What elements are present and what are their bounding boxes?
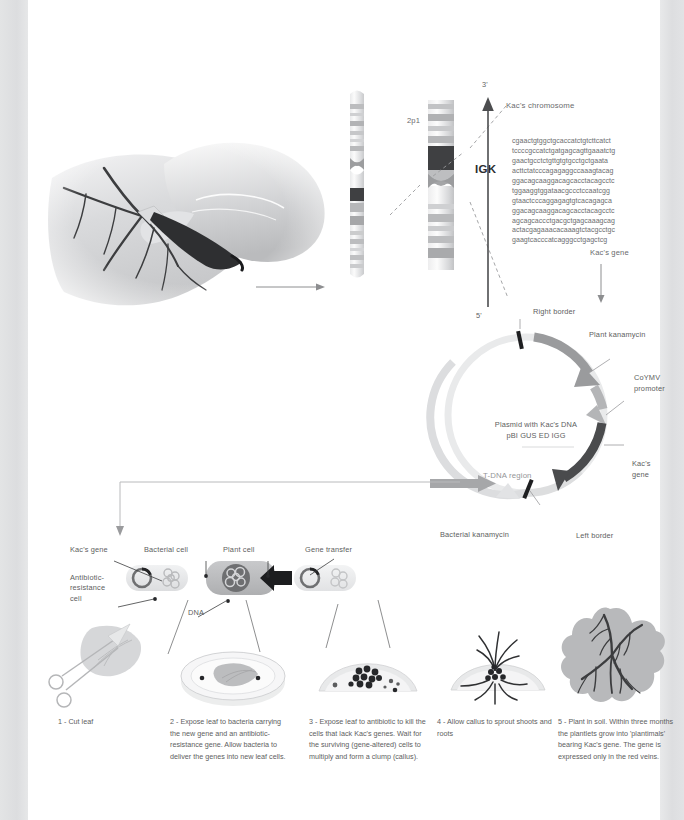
figure-page: 2p1 16 15 14 13 12 11 bbox=[0, 0, 684, 820]
sequence-line: gtaactcccaggagagtgtcacagagca bbox=[512, 196, 642, 206]
plasmid-center-line-1: Plasmid with Kac's DNA bbox=[488, 420, 584, 431]
step-caption-4: 4 - Allow callus to sprout shoots and ro… bbox=[437, 716, 555, 739]
arrow-arm-to-chromosome bbox=[256, 282, 326, 292]
kacs-chromosome-caption: Kac's chromosome bbox=[506, 100, 574, 111]
plasmid-label-kacs-gene: Kac's gene bbox=[632, 459, 660, 480]
step-3-illustration-antibiotic-dish bbox=[313, 645, 423, 707]
connector-plasmid-to-steps bbox=[96, 478, 466, 542]
schematic-label-kacs-gene: Kac's gene bbox=[70, 545, 108, 556]
sequence-line: tccccgccatctgatgagcagttgaaatctg bbox=[512, 146, 642, 156]
strand-label-3prime: 3' bbox=[482, 80, 488, 91]
promoter-line-2: promoter bbox=[634, 384, 665, 395]
sequence-line: gaagtcacccatcagggcctgagctcg bbox=[512, 235, 642, 245]
step-2-illustration-petri-dish bbox=[178, 640, 288, 712]
step-caption-2: 2 - Expose leaf to bacteria carrying the… bbox=[170, 716, 288, 763]
left-gutter bbox=[0, 0, 28, 820]
arrow-sequence-to-plasmid bbox=[596, 264, 606, 304]
plasmid-label-coymv-promoter: CoYMV promoter bbox=[634, 373, 665, 394]
plasmid-center-caption: Plasmid with Kac's DNA pBI GUS ED IGG bbox=[488, 420, 584, 441]
plasmid-label-right-border: Right border bbox=[533, 307, 575, 318]
sequence-line: agcagcaccctgacgctgagcaaagcag bbox=[512, 216, 642, 226]
step-caption-5: 5 - Plant in soil. Within three months t… bbox=[558, 716, 682, 763]
plasmid-label-left-border: Left border bbox=[576, 531, 613, 542]
figure-canvas: 2p1 16 15 14 13 12 11 bbox=[28, 0, 660, 820]
sequence-line: ggacagcaaggacagcacctacagcctc bbox=[512, 206, 642, 216]
kacs-gene-caption: Kac's gene bbox=[590, 247, 629, 258]
sequence-line: acttctatcccagagaggccaaagtacag bbox=[512, 166, 642, 176]
schematic-label-bacterial-cell: Bacterial cell bbox=[144, 545, 188, 556]
plasmid-center-line-2: pBI GUS ED IGG bbox=[488, 431, 584, 442]
step-caption-1: 1 - Cut leaf bbox=[58, 716, 176, 728]
schematic-label-antibiotic-resistance-cell: Antibiotic- resistance cell bbox=[70, 573, 105, 604]
sequence-line: tggaaggtggataacgccctccaatcgg bbox=[512, 186, 642, 196]
step-5-illustration-plantimal-leaf bbox=[558, 605, 668, 710]
plasmid-label-tdna-region: T-DNA region bbox=[483, 470, 532, 481]
step-caption-3: 3 - Expose leaf to antibiotic to kill th… bbox=[309, 716, 427, 763]
step-4-illustration-sprouting-callus bbox=[443, 628, 553, 708]
dna-sequence-block: cgaactgtggctgcaccatctgtcttcatct tccccgcc… bbox=[512, 136, 642, 245]
sequence-line: ggacagcaaggacagcacctacagcctc bbox=[512, 176, 642, 186]
strand-arrow bbox=[480, 95, 496, 310]
promoter-line-1: CoYMV bbox=[634, 373, 665, 384]
schematic-label-plant-cell: Plant cell bbox=[223, 545, 255, 556]
sequence-line: actacgagaaacacaaagtctacgcctgc bbox=[512, 225, 642, 235]
schematic-label-gene-transfer: Gene transfer bbox=[305, 545, 352, 556]
sequence-line: gaactgcctctgttgtgtgcctgctgaata bbox=[512, 156, 642, 166]
plasmid-label-plant-kanamycin: Plant kanamycin bbox=[589, 330, 645, 341]
magnify-leader-lines bbox=[358, 90, 538, 330]
sequence-line: cgaactgtggctgcaccatctgtcttcatct bbox=[512, 136, 642, 146]
step-1-illustration-scissors-leaf bbox=[48, 620, 156, 712]
